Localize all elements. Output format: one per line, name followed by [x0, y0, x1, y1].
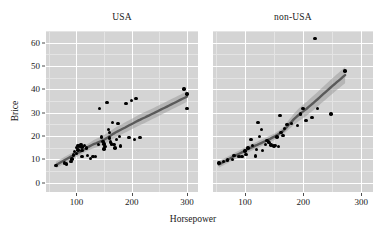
x-tick-mark	[76, 193, 77, 196]
data-point	[226, 158, 229, 161]
y-tick-label: 0	[36, 178, 41, 188]
smooth-overlay	[46, 31, 198, 192]
x-tick-mark	[132, 193, 133, 196]
chart-figure: USA non-USA 0102030405060 100200300 1002…	[0, 0, 386, 239]
y-tick-mark	[42, 89, 45, 90]
x-tick-label: 100	[70, 197, 84, 207]
data-point	[278, 114, 281, 117]
facet-panel-usa	[46, 31, 198, 192]
x-tick-mark	[245, 193, 246, 196]
data-point	[138, 136, 141, 139]
data-point	[54, 164, 57, 167]
data-point	[182, 87, 185, 90]
data-point	[301, 107, 304, 110]
data-point	[70, 157, 73, 160]
y-tick-label: 50	[31, 61, 40, 71]
x-tick-label: 200	[296, 197, 310, 207]
data-point	[329, 112, 332, 115]
data-point	[299, 112, 302, 115]
data-point	[244, 153, 247, 156]
x-tick-mark	[303, 193, 304, 196]
data-point	[256, 121, 259, 124]
data-point	[232, 154, 235, 157]
data-point	[80, 149, 83, 152]
data-point	[124, 102, 127, 105]
y-tick-label: 20	[31, 131, 40, 141]
y-tick-label: 60	[31, 38, 40, 48]
data-point	[76, 148, 79, 151]
data-point	[231, 158, 234, 161]
data-point	[116, 122, 119, 125]
facet-strip-label-usa: USA	[46, 12, 198, 22]
y-tick-mark	[42, 182, 45, 183]
y-tick-mark	[42, 42, 45, 43]
x-tick-label: 100	[238, 197, 252, 207]
smooth-overlay	[213, 31, 373, 192]
y-tick-label: 30	[31, 108, 40, 118]
data-point	[100, 135, 103, 138]
data-point	[304, 119, 307, 122]
x-tick-label: 200	[125, 197, 139, 207]
data-point	[185, 107, 188, 110]
y-axis-title: Brice	[9, 30, 19, 191]
data-point	[310, 116, 313, 119]
data-point	[119, 144, 122, 147]
facet-strip-label-non-usa: non-USA	[213, 12, 373, 22]
data-point	[113, 146, 116, 149]
data-point	[85, 146, 88, 149]
data-point	[134, 97, 137, 100]
data-point	[254, 154, 257, 157]
y-tick-label: 10	[31, 154, 40, 164]
data-point	[285, 123, 288, 126]
x-axis-title: Horsepower	[0, 214, 386, 224]
data-point	[185, 92, 188, 95]
data-point	[103, 145, 106, 148]
confidence-band	[219, 67, 345, 168]
data-point	[127, 136, 130, 139]
data-point	[217, 161, 220, 164]
data-point	[281, 134, 284, 137]
facet-panel-non-usa	[213, 31, 373, 192]
data-point	[343, 69, 346, 72]
data-point	[249, 138, 252, 141]
y-tick-mark	[42, 112, 45, 113]
y-tick-label: 40	[31, 84, 40, 94]
data-point	[246, 146, 249, 149]
x-tick-mark	[187, 193, 188, 196]
y-tick-mark	[42, 66, 45, 67]
data-point	[275, 135, 278, 138]
x-tick-mark	[361, 193, 362, 196]
data-point	[65, 162, 68, 165]
data-point	[261, 149, 264, 152]
y-tick-mark	[42, 159, 45, 160]
x-tick-label: 300	[355, 197, 369, 207]
data-point	[313, 37, 316, 40]
x-tick-label: 300	[180, 197, 194, 207]
data-point	[240, 155, 243, 158]
data-point	[105, 101, 108, 104]
y-tick-mark	[42, 136, 45, 137]
